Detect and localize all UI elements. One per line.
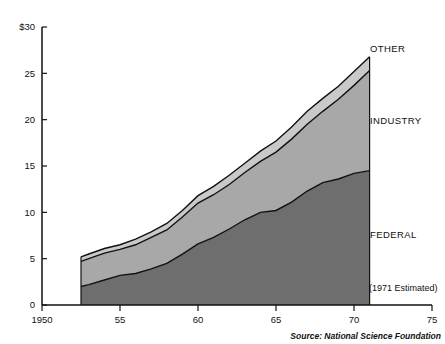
source-credit: Source: National Science Foundation <box>290 331 441 341</box>
x-tick-label: 60 <box>193 314 204 325</box>
y-axis-tick-labels: 0510152025$30 <box>19 21 35 310</box>
y-tick-label: 5 <box>30 253 35 264</box>
x-axis-ticks <box>42 305 432 311</box>
y-tick-label: 10 <box>24 207 35 218</box>
x-tick-label: 1950 <box>31 314 52 325</box>
estimate-annotation: (1971 Estimated) <box>369 283 438 293</box>
y-tick-label: 20 <box>24 114 35 125</box>
x-tick-label: 55 <box>115 314 126 325</box>
x-axis-tick-labels: 19505560657075 <box>31 314 437 325</box>
chart-plot-area <box>81 57 370 305</box>
x-tick-label: 75 <box>427 314 438 325</box>
x-tick-label: 65 <box>271 314 282 325</box>
band-label-industry: INDUSTRY <box>370 115 422 126</box>
y-tick-label: $30 <box>19 21 35 32</box>
chart-root: 0510152025$30 19505560657075 OTHER INDUS… <box>0 0 445 344</box>
band-label-federal: FEDERAL <box>370 229 417 240</box>
y-tick-label: 15 <box>24 160 35 171</box>
x-tick-label: 70 <box>349 314 360 325</box>
band-label-other: OTHER <box>370 43 405 54</box>
rnd-expenditure-area-chart: 0510152025$30 19505560657075 OTHER INDUS… <box>0 0 445 344</box>
y-tick-label: 0 <box>30 299 35 310</box>
y-tick-label: 25 <box>24 68 35 79</box>
